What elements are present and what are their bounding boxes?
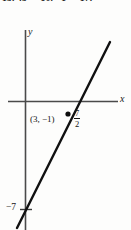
answer-key-item-17: 17. xyxy=(80,0,92,3)
x-intercept-fraction: 7 2 xyxy=(74,109,80,129)
plot-svg xyxy=(0,11,131,230)
answer-key-item-15: 15. 45 xyxy=(2,0,27,3)
fraction-denominator: 2 xyxy=(74,120,80,129)
y-intercept-label: −7 xyxy=(6,202,16,212)
answer-key-item-16: 16. −1 xyxy=(41,0,67,3)
point-label-3-neg1: (3, −1) xyxy=(30,114,55,124)
y-axis-label: y xyxy=(28,26,32,37)
answer-key-strip: 15. 45 16. −1 17. xyxy=(0,0,131,11)
plotted-line xyxy=(17,42,110,228)
x-axis-label: x xyxy=(120,93,124,104)
answer-key-row: 15. 45 16. −1 17. xyxy=(2,0,131,3)
point-marker-3-neg1 xyxy=(65,111,70,116)
coordinate-plot: y x (3, −1) −7 7 2 xyxy=(0,11,131,230)
fraction-numerator: 7 xyxy=(74,109,80,118)
textbook-graph-figure: 15. 45 16. −1 17. y x (3, −1) −7 7 xyxy=(0,0,131,230)
